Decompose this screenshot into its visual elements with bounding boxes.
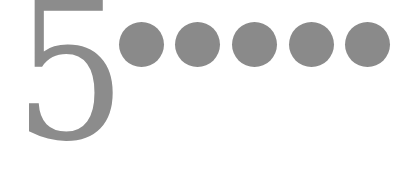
dot-icon [289, 22, 334, 67]
dot-icon [345, 22, 390, 67]
rating-dots [0, 0, 406, 171]
dot-icon [175, 22, 220, 67]
dot-icon [119, 22, 164, 67]
dot-icon [232, 22, 277, 67]
